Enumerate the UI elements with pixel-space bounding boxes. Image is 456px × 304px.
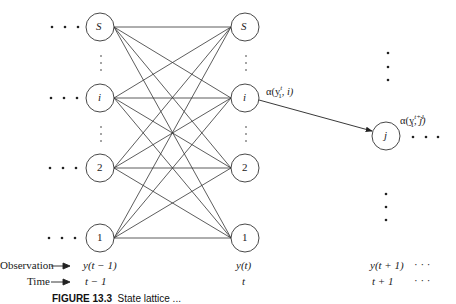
observation-row-label: Observation xyxy=(0,260,54,271)
node-label: 1 xyxy=(242,232,248,243)
figure-number: FIGURE 13.3 xyxy=(52,293,112,304)
time-value: t + 1 xyxy=(372,276,393,287)
continuation-ellipsis: · · · xyxy=(414,259,431,270)
node-label: 2 xyxy=(97,162,103,173)
figure-caption: FIGURE 13.3 State lattice ... xyxy=(52,293,181,304)
left-continuation-dots xyxy=(48,26,80,240)
alpha-label-t: α(yt1, i) xyxy=(266,84,293,100)
node-label: 1 xyxy=(97,232,103,243)
transition-edges xyxy=(114,27,231,238)
time-row-label: Time xyxy=(27,276,50,287)
observation-value: y(t − 1) xyxy=(83,260,117,271)
time-arrowhead xyxy=(63,279,70,285)
continuation-ellipsis: · · · xyxy=(414,275,431,286)
node-label: i xyxy=(98,92,101,103)
time-value: t − 1 xyxy=(85,276,106,287)
node-label: j xyxy=(384,130,387,141)
node-label: i xyxy=(243,92,246,103)
figure-caption-text: State lattice ... xyxy=(118,293,181,304)
observation-arrowhead xyxy=(63,263,70,269)
alpha-label-t-plus-1: α(yt+11, j) xyxy=(400,113,426,129)
node-label: 2 xyxy=(242,162,248,173)
observation-value: y(t) xyxy=(236,260,251,271)
time-value: t xyxy=(242,276,245,287)
transition-arrow xyxy=(259,100,372,131)
node-label: S xyxy=(241,21,247,32)
node-label: S xyxy=(96,21,102,32)
observation-value: y(t + 1) xyxy=(370,260,404,271)
